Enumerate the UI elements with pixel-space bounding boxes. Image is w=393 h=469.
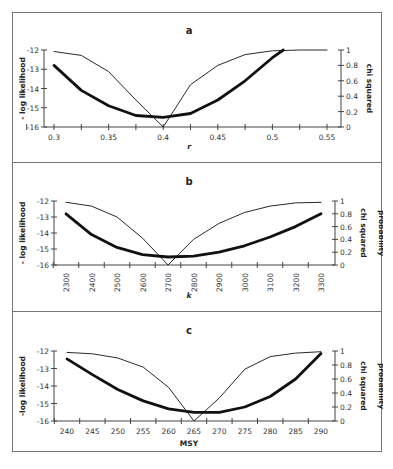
panel-title: c xyxy=(186,325,192,336)
x-tick-label: 245 xyxy=(85,427,100,436)
y-left-tick-label: -16 xyxy=(37,261,49,270)
y-left-tick-label: -13 xyxy=(27,65,39,74)
y-right-tick-label: 0.2 xyxy=(346,108,358,117)
y-right-tick-label: 0.4 xyxy=(340,389,352,398)
x-tick-label: 0.55 xyxy=(319,133,336,142)
x-tick-label: 290 xyxy=(314,427,329,436)
x-tick-label: 265 xyxy=(187,427,202,436)
x-tick-label: 0.45 xyxy=(209,133,226,142)
y-left-tick-label: -12 xyxy=(37,347,49,356)
y-left-tick-label: -13 xyxy=(37,213,49,222)
y-left-tick-label: -15 xyxy=(37,245,49,254)
y-right-tick-label: 1 xyxy=(340,347,345,356)
y-left-tick-label: -12 xyxy=(37,197,49,206)
y-right-tick-label: 0.4 xyxy=(340,235,352,244)
x-tick-label: 240 xyxy=(60,427,75,436)
y-left-tick-label: -16 xyxy=(27,123,39,132)
x-axis-label: MSY xyxy=(180,439,199,448)
y-right-axis-label: chi squared xyxy=(359,208,368,257)
x-tick-label: 2300 xyxy=(62,273,71,292)
y-right-tick-label: 0 xyxy=(340,417,345,426)
y-right-tick-label: 0.8 xyxy=(346,61,358,70)
x-tick-label: 0.35 xyxy=(100,133,117,142)
y-left-tick-label: -14 xyxy=(37,382,49,391)
x-tick-label: 2400 xyxy=(88,273,97,292)
panel-title: b xyxy=(185,176,192,187)
chart-c-plot: c-12-13-14-15-1610.80.60.40.202402452502… xyxy=(13,312,383,453)
y-left-tick-label: -15 xyxy=(27,104,39,113)
x-tick-label: 3100 xyxy=(266,273,275,292)
x-tick-label: 3300 xyxy=(317,273,326,292)
y-left-tick-label: -14 xyxy=(27,85,39,94)
y-right-tick-label: 0.8 xyxy=(340,361,352,370)
x-tick-label: 2700 xyxy=(164,273,173,292)
y-right-tick-label: 0.6 xyxy=(346,77,358,86)
x-tick-label: 3000 xyxy=(241,273,250,292)
x-axis-label: r xyxy=(187,142,192,151)
y-left-tick-label: -15 xyxy=(37,400,49,409)
y-right-tick-label: 1 xyxy=(340,197,345,206)
x-tick-label: 2800 xyxy=(190,273,199,292)
y-right-tick-label: 0.2 xyxy=(340,403,352,412)
chart-b-plot: b-12-13-14-15-1610.80.60.40.202300240025… xyxy=(13,163,383,313)
y-left-tick-label: -13 xyxy=(37,365,49,374)
x-tick-label: 270 xyxy=(212,427,227,436)
x-tick-label: 0.3 xyxy=(48,133,60,142)
log-likelihood-line xyxy=(66,214,321,257)
y-right-tick-label: 1 xyxy=(346,46,351,55)
y-right-tick-label: 0 xyxy=(340,261,345,270)
x-tick-label: 250 xyxy=(111,427,126,436)
x-tick-label: 260 xyxy=(161,427,176,436)
y-left-axis-label: -log likelihood xyxy=(18,356,27,416)
x-tick-label: 255 xyxy=(136,427,151,436)
chart-panel-c: c-12-13-14-15-1610.80.60.40.202402452502… xyxy=(12,311,382,452)
chart-a-plot: a-12-13-14-15-1610.80.60.40.200.30.350.4… xyxy=(13,13,383,164)
x-tick-label: 280 xyxy=(263,427,278,436)
y-left-axis-label: - log likelihood xyxy=(18,202,27,265)
y-right-tick-label: 0 xyxy=(346,123,351,132)
x-tick-label: 2500 xyxy=(113,273,122,292)
y-left-axis-label: - log likelihood xyxy=(18,57,27,120)
chart-panel-b: b-12-13-14-15-1610.80.60.40.202300240025… xyxy=(12,162,382,312)
x-tick-label: 2900 xyxy=(215,273,224,292)
chart-panel-a: a-12-13-14-15-1610.80.60.40.200.30.350.4… xyxy=(12,12,382,163)
y-left-tick-label: -16 xyxy=(37,417,49,426)
x-tick-label: 2600 xyxy=(139,273,148,292)
y-right-axis-label: chi squared xyxy=(359,361,368,410)
x-tick-label: 0.5 xyxy=(266,133,278,142)
x-tick-label: 285 xyxy=(288,427,303,436)
y-right-tick-label: 0.4 xyxy=(346,92,358,101)
y-right-axis-label: chi squared xyxy=(365,64,374,113)
y-right-tick-label: 0.2 xyxy=(340,248,352,257)
x-tick-label: 275 xyxy=(238,427,253,436)
y-left-tick-label: -12 xyxy=(27,46,39,55)
y-right-tick-label: 0.8 xyxy=(340,210,352,219)
panel-title: a xyxy=(186,25,193,36)
y-left-tick-label: -14 xyxy=(37,229,49,238)
log-likelihood-line xyxy=(67,354,321,413)
x-tick-label: 0.4 xyxy=(157,133,169,142)
y-right-axis-label-2: probability xyxy=(377,363,383,409)
x-tick-label: 3200 xyxy=(292,273,301,292)
y-right-tick-label: 0.6 xyxy=(340,223,352,232)
y-right-axis-label-2: probability xyxy=(377,210,383,256)
y-right-tick-label: 0.6 xyxy=(340,375,352,384)
chi-squared-probability-line xyxy=(54,50,327,127)
